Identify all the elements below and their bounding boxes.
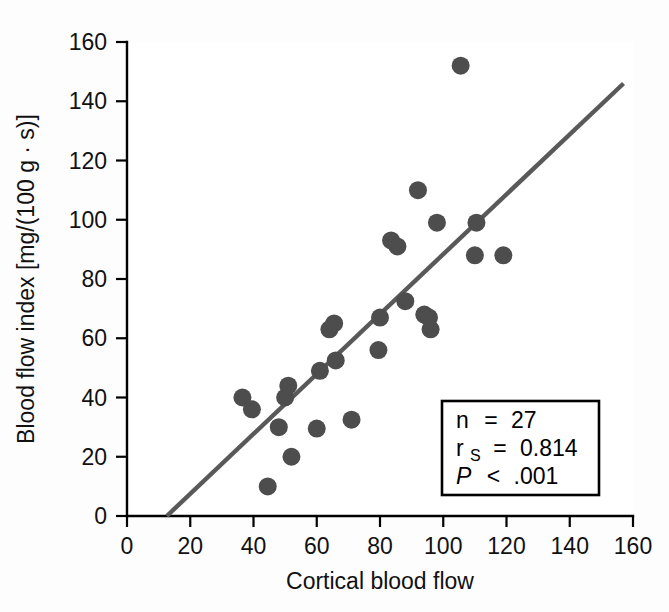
- x-tick-label: 160: [614, 533, 652, 559]
- y-tick-label: 100: [69, 207, 107, 233]
- y-tick-label: 40: [81, 385, 107, 411]
- r-value: 0.814: [520, 435, 578, 461]
- y-axis-title: Blood flow index [mg/(100 g · s)]: [13, 114, 39, 444]
- y-tick-label: 20: [81, 444, 107, 470]
- data-point: [369, 341, 387, 359]
- y-tick-label: 140: [69, 88, 107, 114]
- sample-size-line: n = 27: [456, 407, 537, 433]
- p-label: P: [456, 463, 472, 489]
- data-point: [279, 377, 297, 395]
- data-point: [371, 309, 389, 327]
- x-tick-label: 60: [304, 533, 330, 559]
- x-tick-label: 120: [487, 533, 525, 559]
- x-tick-label: 20: [177, 533, 203, 559]
- x-tick-label: 40: [241, 533, 267, 559]
- r-subscript: S: [470, 447, 481, 464]
- x-tick-label: 80: [367, 533, 393, 559]
- data-point: [388, 237, 406, 255]
- data-point: [422, 320, 440, 338]
- data-point: [243, 400, 261, 418]
- data-point: [259, 477, 277, 495]
- x-tick-label: 100: [424, 533, 462, 559]
- p-value: .001: [514, 463, 559, 489]
- n-value: 27: [511, 407, 537, 433]
- data-point: [308, 420, 326, 438]
- data-point: [466, 246, 484, 264]
- y-tick-label: 120: [69, 148, 107, 174]
- data-point: [452, 57, 470, 75]
- data-point: [428, 214, 446, 232]
- y-tick-label: 0: [94, 503, 107, 529]
- data-point: [343, 411, 361, 429]
- r-label: r: [456, 435, 464, 461]
- data-point: [325, 314, 343, 332]
- statistics-box: n = 27 r S = 0.814 P < .001: [442, 401, 599, 495]
- chart-canvas: 020406080100120140160 020406080100120140…: [0, 0, 669, 612]
- y-tick-label: 80: [81, 266, 107, 292]
- data-point: [311, 362, 329, 380]
- scatter-plot-figure: 020406080100120140160 020406080100120140…: [0, 0, 669, 612]
- y-tick-label: 60: [81, 325, 107, 351]
- data-point: [494, 246, 512, 264]
- data-point: [282, 448, 300, 466]
- y-tick-label: 160: [69, 29, 107, 55]
- data-point: [409, 181, 427, 199]
- p-operator: <: [487, 463, 500, 489]
- n-label: n: [456, 407, 469, 433]
- data-point: [467, 214, 485, 232]
- x-tick-label: 140: [551, 533, 589, 559]
- data-point: [327, 351, 345, 369]
- x-axis-title: Cortical blood flow: [286, 568, 474, 594]
- data-point: [270, 418, 288, 436]
- r-operator: =: [493, 435, 506, 461]
- n-operator: =: [484, 407, 497, 433]
- data-point: [396, 292, 414, 310]
- x-tick-label: 0: [121, 533, 134, 559]
